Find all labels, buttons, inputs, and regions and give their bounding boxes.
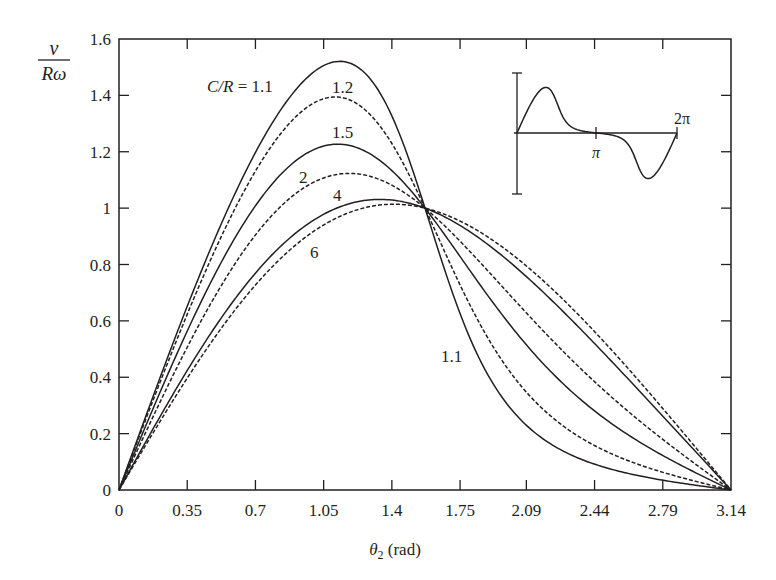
- y-tick-label: 0.6: [90, 312, 111, 331]
- label-cr-1-1: C/R = 1.1: [207, 77, 273, 96]
- y-tick-label: 1.6: [90, 30, 111, 49]
- curves: [119, 61, 731, 490]
- label-6: 6: [310, 243, 319, 262]
- curve-1-2: [119, 97, 731, 490]
- y-tick-label: 0.8: [90, 256, 111, 275]
- inset-pi-label: π: [592, 144, 601, 161]
- plot-frame: [119, 39, 731, 490]
- x-tick-labels: 00.350.71.051.41.752.092.442.793.14: [115, 501, 747, 520]
- y-tick-label: 0.2: [90, 425, 111, 444]
- y-tick-label: 1: [103, 199, 112, 218]
- y-label-numerator: ν: [50, 37, 59, 59]
- label-1-1-lower: 1.1: [441, 347, 462, 366]
- label-2: 2: [299, 168, 308, 187]
- y-label-denominator: Rω: [40, 63, 66, 84]
- x-tick-label: 0.7: [245, 501, 267, 520]
- y-axis-label: ν Rω: [38, 37, 70, 84]
- curve-1-1: [119, 61, 731, 490]
- x-tick-label: 1.4: [381, 501, 403, 520]
- x-tick-label: 3.14: [716, 501, 746, 520]
- x-tick-label: 1.75: [445, 501, 475, 520]
- x-tick-label: 2.79: [648, 501, 678, 520]
- label-1-2: 1.2: [332, 78, 353, 97]
- x-tick-label: 0: [115, 501, 124, 520]
- label-1-5: 1.5: [332, 123, 353, 142]
- x-tick-label: 2.09: [511, 501, 541, 520]
- y-tick-labels: 00.20.40.60.811.21.41.6: [90, 30, 112, 500]
- axis-ticks: [119, 39, 731, 490]
- y-tick-label: 0: [103, 481, 112, 500]
- label-4: 4: [333, 186, 342, 205]
- inset-plot: π 2π: [512, 73, 690, 194]
- velocity-chart: ν Rω 00.20.40.60.811.21.41.6 00.350.71.0…: [0, 0, 776, 580]
- inset-2pi-label: 2π: [674, 110, 690, 127]
- x-axis-label: θ2 (rad): [369, 540, 421, 562]
- x-tick-label: 2.44: [580, 501, 610, 520]
- y-tick-label: 0.4: [90, 368, 112, 387]
- x-tick-label: 1.05: [309, 501, 339, 520]
- curve-4: [119, 199, 731, 490]
- curve-1-5: [119, 144, 731, 490]
- y-tick-label: 1.4: [90, 86, 112, 105]
- y-tick-label: 1.2: [90, 143, 111, 162]
- x-tick-label: 0.35: [172, 501, 202, 520]
